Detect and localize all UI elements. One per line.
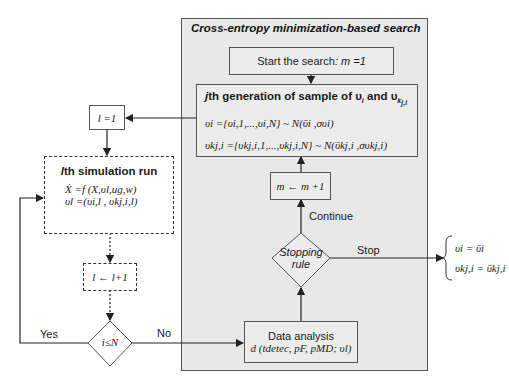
generation-title: jth generation of sample of υi and υkj,i: [205, 90, 407, 107]
simulation-equation-1: Ẋ =f (X,υl,ug,w): [65, 183, 136, 195]
stopping-rule-diamond: Stopping rule: [272, 246, 330, 270]
data-analysis-box: Data analysis d (tdetec, pF, pMD; υl): [244, 321, 358, 363]
start-label: Start the search: [257, 55, 335, 67]
generation-equation-1: υi ={υi,1,...,υi,N} ~ N(ῡi ,συi): [205, 117, 334, 129]
m-increment-box: m ← m +1: [270, 172, 331, 200]
sample-generation-box: jth generation of sample of υi and υkj,i…: [196, 84, 418, 157]
generation-equation-2: υkj,i ={υkj,i,1,...,υkj,i,N} ~ N(ῡkj,i ,…: [205, 139, 387, 151]
simulation-title: lth simulation run: [61, 165, 157, 177]
simulation-run-box: lth simulation run Ẋ =f (X,υl,ug,w) υl =…: [44, 156, 174, 234]
no-label: No: [157, 327, 171, 339]
simulation-equation-2: υl =(υi,l , υkj,i,l): [65, 195, 137, 207]
l-init-label: l =1: [98, 112, 117, 124]
m-increment-label: m ← m +1: [276, 180, 324, 192]
start-expr: : m =1: [335, 55, 366, 67]
stop-label: Stop: [357, 244, 380, 256]
output-equation-1: υi = ῡi: [455, 238, 506, 258]
l-increment-box: l ← l+1: [83, 263, 137, 291]
continue-label: Continue: [309, 210, 353, 222]
loop-check-diamond: i≤N: [88, 336, 132, 348]
start-search-box: Start the search: m =1: [229, 47, 394, 75]
data-analysis-title: Data analysis: [268, 330, 334, 342]
yes-label: Yes: [40, 328, 58, 340]
l-increment-label: l ← l+1: [92, 271, 128, 283]
data-analysis-expr: d (tdetec, pF, pMD; υl): [251, 342, 352, 354]
output-equation-2: υkj,i = ῡkj,i: [455, 258, 506, 278]
search-output: υi = ῡi υkj,i = ῡkj,i: [455, 238, 506, 278]
l-init-box: l =1: [89, 105, 125, 130]
